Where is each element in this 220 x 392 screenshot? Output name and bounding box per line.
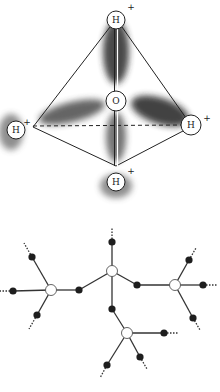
oxygen-node (107, 266, 118, 277)
hydrogen-node (199, 281, 206, 288)
orbital-lobe-top (103, 20, 129, 84)
orbital-lobes (0, 20, 193, 198)
oxygen-node (170, 280, 181, 291)
oxygen-label: O (112, 96, 119, 106)
hydrogen-node (185, 256, 192, 263)
positive-charge: + (203, 113, 211, 123)
hydrogen-atom: H+ (181, 113, 211, 135)
hydrogen-node (75, 286, 82, 293)
oxygen-node (46, 285, 57, 296)
hydrogen-node (9, 287, 16, 294)
hydrogen-label: H (112, 15, 120, 25)
hydrogen-node (28, 253, 35, 260)
oxygen-node (122, 328, 133, 339)
positive-charge: + (127, 166, 135, 176)
positive-charge: + (23, 117, 31, 127)
hydrogen-bond-network (0, 228, 218, 378)
orbital-lobe-left (37, 94, 108, 130)
hydrogen-node (133, 281, 140, 288)
orbital-lobe-bottom (106, 112, 126, 162)
hydrogen-node (103, 361, 110, 368)
hydrogen-label: H (187, 120, 195, 130)
edge-right-bottom (116, 131, 183, 166)
hydrogen-node (108, 305, 115, 312)
edge-left-bottom (33, 127, 116, 166)
hydrogen-label: H (112, 177, 120, 187)
hydrogen-node (108, 238, 115, 245)
hydrogen-node (160, 329, 167, 336)
hydrogen-node (189, 314, 196, 321)
positive-charge: + (127, 2, 135, 12)
hydrogen-label: H (12, 125, 20, 135)
oxygen-nodes (46, 266, 181, 339)
bonds (13, 242, 203, 365)
hydrogen-node (33, 311, 40, 318)
hydrogen-atom: H+ (107, 2, 135, 29)
hydrogen-node (136, 353, 143, 360)
water-structure-diagram: OH+H+H+H+ (0, 0, 220, 392)
oxygen-atom: O (106, 91, 126, 111)
hydrogen-nodes (9, 238, 206, 368)
